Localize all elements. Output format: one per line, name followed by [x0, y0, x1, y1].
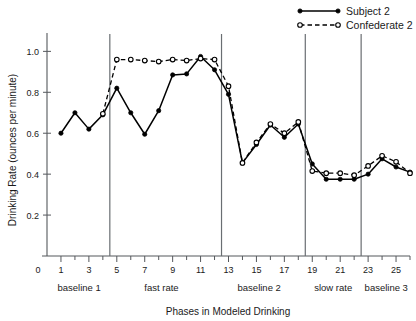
data-point-marker: [310, 169, 315, 174]
phase-dividers-group: [110, 34, 361, 256]
x-tick-label: 19: [307, 265, 317, 275]
x-tick-label: 21: [335, 265, 345, 275]
legend-swatch-marker: [298, 9, 302, 13]
data-point-marker: [352, 173, 357, 178]
axis-titles-group: Drinking Rate (ounces per minute) Phases…: [7, 74, 290, 317]
phase-label: baseline 1: [57, 282, 100, 293]
x-tick-label: 5: [114, 265, 119, 275]
phase-label: baseline 2: [238, 282, 281, 293]
data-point-marker: [366, 164, 371, 169]
data-point-marker: [73, 111, 77, 115]
data-point-marker: [310, 162, 314, 166]
data-point-marker: [338, 171, 343, 176]
series-line-confederate-2: [103, 59, 410, 176]
phase-label: slow rate: [314, 282, 352, 293]
y-tick-label: 0.8: [26, 88, 39, 98]
data-point-marker: [157, 109, 161, 113]
data-point-marker: [184, 58, 189, 63]
phase-label: baseline 3: [365, 282, 408, 293]
x-tick-label: 0: [35, 265, 40, 275]
x-tick-label: 11: [196, 265, 205, 275]
legend-label: Subject 2: [346, 5, 390, 17]
x-tick-label: 17: [279, 265, 289, 275]
data-point-marker: [366, 172, 370, 176]
x-tick-label: 9: [170, 265, 175, 275]
axes-group: [42, 33, 410, 262]
data-point-marker: [101, 111, 106, 116]
legend-label: Confederate 2: [346, 19, 413, 31]
data-point-marker: [282, 131, 287, 136]
data-point-marker: [185, 72, 189, 76]
data-point-marker: [156, 59, 161, 64]
data-point-marker: [59, 131, 63, 135]
data-point-marker: [380, 153, 385, 158]
data-point-marker: [254, 140, 259, 145]
legend: Subject 2Confederate 2: [298, 5, 413, 31]
x-tick-label: 7: [142, 265, 147, 275]
x-axis-title: Phases in Modeled Drinking: [166, 306, 291, 317]
data-point-marker: [142, 58, 147, 63]
line-chart: 0.20.40.60.81.00135791113151719212325 ba…: [0, 0, 416, 321]
data-point-marker: [212, 57, 217, 62]
data-point-marker: [268, 122, 273, 127]
data-point-marker: [296, 120, 301, 125]
data-point-marker: [129, 111, 133, 115]
data-point-marker: [324, 177, 328, 181]
y-tick-label: 0.2: [26, 211, 39, 221]
data-point-marker: [324, 171, 329, 176]
phase-label: fast rate: [144, 282, 178, 293]
legend-swatch-marker: [298, 23, 303, 28]
y-tick-label: 1.0: [26, 47, 39, 57]
data-point-marker: [408, 171, 413, 176]
y-tick-label: 0.4: [26, 170, 39, 180]
data-point-marker: [128, 57, 133, 62]
x-tick-label: 13: [223, 265, 233, 275]
data-point-marker: [240, 161, 245, 166]
x-tick-label: 1: [58, 265, 63, 275]
y-axis-title: Drinking Rate (ounces per minute): [7, 74, 18, 226]
x-tick-label: 15: [251, 265, 261, 275]
data-point-marker: [198, 56, 203, 61]
data-point-marker: [143, 132, 147, 136]
data-point-marker: [115, 86, 119, 90]
data-point-marker: [226, 84, 231, 89]
series-group: [59, 54, 412, 181]
data-point-marker: [212, 68, 216, 72]
x-tick-label: 23: [363, 265, 373, 275]
legend-swatch-marker: [336, 9, 340, 13]
data-point-marker: [338, 177, 342, 181]
y-tick-label: 0.6: [26, 129, 39, 139]
phase-labels-group: baseline 1fast ratebaseline 2slow rateba…: [57, 282, 407, 293]
data-point-marker: [171, 73, 175, 77]
data-point-marker: [170, 57, 175, 62]
data-point-marker: [87, 127, 91, 131]
x-tick-label: 3: [86, 265, 91, 275]
legend-swatch-marker: [336, 23, 341, 28]
data-point-marker: [394, 160, 399, 165]
x-tick-label: 25: [391, 265, 401, 275]
data-point-marker: [115, 57, 120, 62]
chart-container: 0.20.40.60.81.00135791113151719212325 ba…: [0, 0, 416, 321]
data-point-marker: [394, 165, 398, 169]
tick-labels-group: 0.20.40.60.81.00135791113151719212325: [26, 47, 401, 275]
